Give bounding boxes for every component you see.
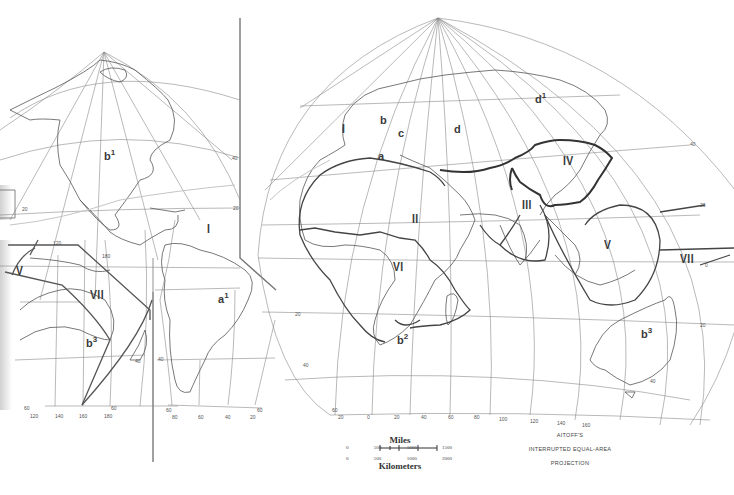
projection-title-line-3: PROJECTION [480,460,660,466]
tick-east-lat-60s-left: 60 [332,407,338,413]
coastline-north-america [10,60,185,245]
tick-sa-lon-40: 40 [225,414,231,420]
tick-west-lat-60s: 60 [24,405,30,411]
tick-west-lon-180: 180 [102,253,110,259]
tick-west-lat-20b: 20 [233,205,239,211]
scale-bar: Miles 0 500 1000 1500 0 500 1000 2000 Ki… [340,435,460,471]
region-label-a1: a1 [218,292,229,305]
tick-east-lon-0: 0 [367,414,370,420]
region-label-VII-east: VII [680,252,694,265]
region-label-IV: IV [563,154,574,167]
projection-title-line-1: AITOFF'S [480,432,660,438]
tick-east-lon-60: 60 [448,414,454,420]
region-label-b1: b1 [104,149,115,162]
tick-sa-lat-60s: 60 [166,407,172,413]
region-label-VI: VI [393,260,404,273]
scan-shadow-lower [0,240,12,410]
region-label-I-west: I [207,222,210,235]
tick-west-lat-40s: 40 [135,358,141,364]
region-label-II: II [412,212,419,225]
tick-east-lon-120: 120 [530,418,538,424]
scale-miles-label: Miles [340,435,460,445]
tick-east-lon-140: 140 [557,420,565,426]
tick-east-lat-40s: 40 [650,378,656,384]
tick-sa-lat-40s: 40 [158,356,164,362]
tick-sa-lon-80: 80 [172,414,178,420]
region-label-a: a [378,151,384,162]
scale-miles-tick: 1500 [442,445,452,450]
tick-east-lon-80: 80 [474,414,480,420]
region-label-V-east: V [604,238,611,251]
coastline-madagascar [446,294,458,325]
tick-west-lon-160-bottom: 160 [79,413,87,419]
tick-east-lon-20: 20 [394,414,400,420]
tick-west-lat-20: 20 [22,206,28,212]
scale-km-label: Kilometers [340,461,460,471]
tick-sa-lon-20: 20 [250,414,256,420]
region-boundaries-east [299,158,734,342]
scale-km-tick: 2000 [442,456,452,461]
scale-miles-tick: 0 [346,445,349,450]
graticule-west [0,52,240,406]
region-label-d: d [454,124,461,135]
region-label-d1: d1 [535,92,546,105]
tick-east-lon-160: 160 [582,422,590,428]
region-label-b2: b2 [397,333,408,346]
scale-miles-tick: 1000 [407,445,417,450]
region-label-b3-west: b3 [86,336,97,349]
coastline-south-america [162,243,253,392]
graticule-south-america [155,220,275,408]
region-label-V-west: V [16,264,23,277]
region-label-III: III [522,198,532,211]
tick-east-lat-40s-left: 40 [303,362,309,368]
projection-title-line-2: INTERRUPTED EQUAL-AREA [480,446,660,452]
region-label-b: b [380,115,387,126]
scan-shadow-upper [0,185,12,220]
tick-east-lon-20w: 20 [338,414,344,420]
graticule-east [258,18,734,425]
tick-west-lat-40: 40 [232,155,238,161]
tick-west-lon-120: 120 [53,240,61,246]
scale-km-tick: 0 [346,456,349,461]
coastline-eurasia-africa [300,70,635,345]
coastline-oceania-west [20,258,147,360]
tick-sa-lon-60: 60 [198,414,204,420]
tick-west-lon-120-bottom: 120 [30,413,38,419]
ocean-current-lines [10,160,330,225]
tick-east-lon-40: 40 [421,414,427,420]
tick-west-lon-140-bottom: 140 [55,413,63,419]
tick-east-lat-20s: 20 [700,322,706,328]
region-label-c: c [398,128,404,139]
coastline-australia [590,297,677,398]
tick-west-lon-180-bottom: 180 [104,413,112,419]
scale-miles-tick: 500 [374,445,382,450]
tick-west-lat-60s-right: 60 [111,405,117,411]
region-label-VII-west: VII [90,288,104,301]
tick-east-lat-40: 40 [690,141,696,147]
tick-east-lat-20: 20 [700,202,706,208]
region-label-I-east: I [342,122,345,135]
tick-east-lat-0: 0 [705,262,708,268]
world-map [0,0,734,495]
tick-east-lat-20-left: 20 [295,311,301,317]
region-label-b3-east: b3 [641,327,652,340]
tick-east-lon-100: 100 [499,416,507,422]
tick-sa-lat-60s-right: 60 [257,407,263,413]
